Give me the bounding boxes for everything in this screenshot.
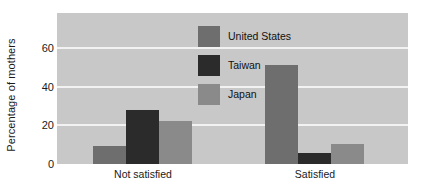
- legend-label: United States: [228, 31, 291, 42]
- bar: [93, 146, 126, 164]
- legend-swatch-icon: [198, 26, 220, 47]
- bar-chart-figure: Percentage of mothers 6040200 Not satisf…: [0, 0, 429, 190]
- legend-swatch-icon: [198, 55, 220, 76]
- y-tick-label: 40: [28, 81, 54, 92]
- legend-label: Japan: [228, 89, 257, 100]
- bar: [298, 153, 331, 164]
- bar: [159, 121, 192, 164]
- y-axis-title: Percentage of mothers: [0, 0, 22, 190]
- y-tick-label: 20: [28, 120, 54, 131]
- legend-entry: United States: [198, 26, 291, 47]
- y-tick-label: 0: [28, 159, 54, 170]
- x-tick-label: Satisfied: [295, 168, 335, 180]
- legend-swatch-icon: [198, 84, 220, 105]
- x-tick-label: Not satisfied: [114, 168, 172, 180]
- legend-entry: Japan: [198, 84, 291, 105]
- y-tick-label: 60: [28, 42, 54, 53]
- y-axis-tick-labels: 6040200: [24, 0, 54, 190]
- chart-legend: United StatesTaiwanJapan: [198, 26, 291, 105]
- bar: [331, 144, 364, 164]
- bar: [126, 110, 159, 164]
- legend-label: Taiwan: [228, 60, 261, 71]
- legend-entry: Taiwan: [198, 55, 291, 76]
